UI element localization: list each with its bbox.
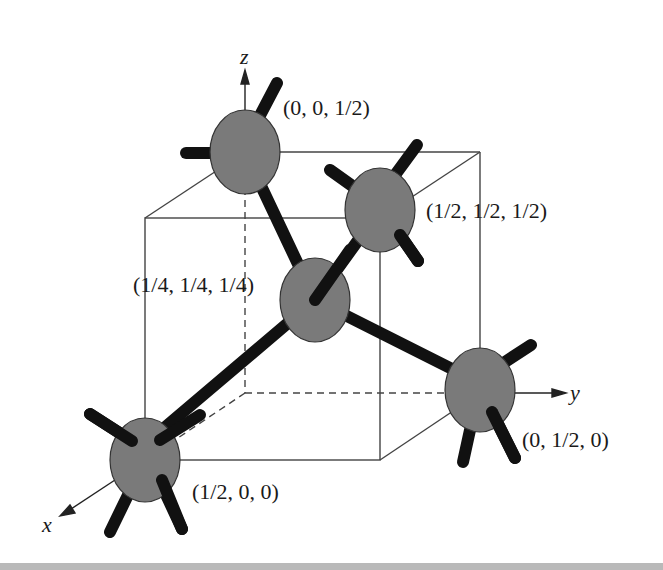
y-axis-label: y <box>568 380 580 405</box>
x-axis-label: x <box>41 512 52 537</box>
atom-label-front-left: (1/2, 0, 0) <box>192 479 279 504</box>
x-axis-arrow-icon <box>60 505 75 516</box>
bond-stub <box>395 145 417 175</box>
atom-label-back-top: (1/2, 1/2, 1/2) <box>426 198 547 223</box>
bond-stub <box>110 495 128 532</box>
z-axis-arrow-icon <box>241 70 249 84</box>
atom-top[interactable] <box>210 110 280 194</box>
atom-label-top: (0, 0, 1/2) <box>283 95 370 120</box>
atom-right[interactable] <box>445 348 515 432</box>
bond-stub <box>505 345 531 362</box>
z-axis-label: z <box>239 44 249 69</box>
atom-label-right: (0, 1/2, 0) <box>522 427 609 452</box>
y-axis-arrow-icon <box>552 389 566 397</box>
bond-stub <box>463 430 470 462</box>
atom-label-center: (1/4, 1/4, 1/4) <box>133 272 254 297</box>
bottom-border-strip <box>0 563 663 570</box>
x-axis <box>68 480 115 511</box>
crystal-structure-diagram: z y x (0, 0, 1/2) (1/2, 1/2, 1/2) (1/4, … <box>0 0 663 570</box>
diagram-canvas: z y x (0, 0, 1/2) (1/2, 1/2, 1/2) (1/4, … <box>0 0 663 570</box>
